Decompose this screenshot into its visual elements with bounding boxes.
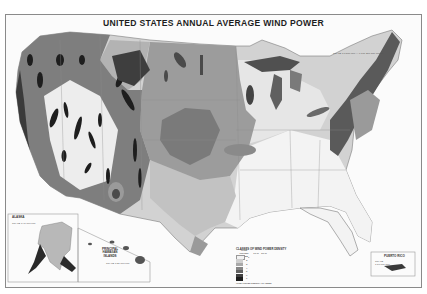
mn-ridge	[164, 70, 168, 82]
puerto-rico-label: PUERTO RICO	[384, 255, 405, 258]
northeast-class2	[350, 90, 380, 140]
alaska-label: ALASKA	[12, 216, 25, 219]
michigan-class5	[246, 85, 254, 105]
alaska-scale: SCALE 1:40,000,000	[12, 222, 36, 225]
nm-class5	[112, 189, 120, 199]
oklahoma-class4	[224, 144, 256, 156]
hawaii-scale: SCALE 1:20,000,000	[106, 262, 134, 265]
us-wind-power-map	[0, 0, 427, 294]
ne-ridge	[200, 55, 203, 75]
swatch	[236, 277, 243, 280]
hawaii-label: PRINCIPAL HAWAIIAN ISLANDS	[96, 248, 124, 258]
legend-footnote: WIND POWER DENSITY CLASSES	[236, 282, 316, 284]
puerto-rico-scale: SCALE 1:10,000,000	[375, 260, 393, 266]
legend-row: 7	[236, 277, 316, 281]
scale-note: SCALE 1:7,500,000 — 0 100 200 300 MILES	[333, 52, 393, 55]
wind-class-legend: CLASSES OF WIND POWER DENSITY WIND POWER…	[236, 247, 316, 285]
